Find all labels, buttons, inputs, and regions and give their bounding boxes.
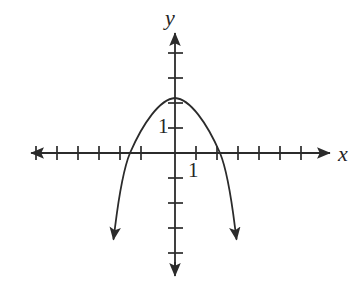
parabola-figure: y x 1 1	[0, 0, 364, 289]
graph-canvas	[0, 0, 364, 289]
x-axis-label: x	[338, 143, 348, 165]
parabola-right-branch	[175, 98, 237, 239]
y-axis-unit-label: 1	[158, 116, 169, 137]
x-axis-unit-label: 1	[188, 160, 199, 181]
y-axis-label: y	[165, 7, 175, 29]
